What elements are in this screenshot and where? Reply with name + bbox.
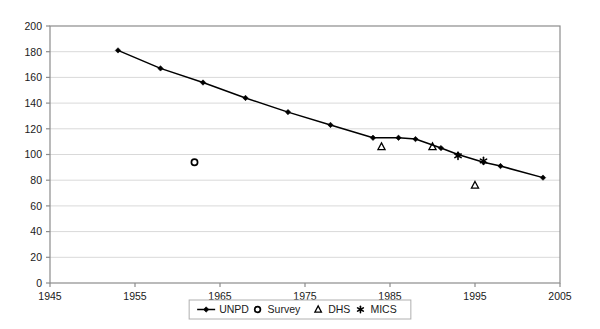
chart-container: 020406080100120140160180200 194519551965… — [0, 0, 600, 329]
legend-label: UNPD — [219, 303, 249, 315]
legend-label: DHS — [328, 303, 350, 315]
legend-label: Survey — [268, 303, 301, 315]
chart-legend: UNPDSurveyDHSMICS — [189, 300, 411, 319]
y-tick-label: 120 — [24, 123, 42, 135]
y-tick-label: 60 — [30, 200, 42, 212]
y-tick-label: 20 — [30, 251, 42, 263]
x-axis: 1945195519651975198519952005 — [38, 283, 572, 302]
y-tick-label: 140 — [24, 97, 42, 109]
x-tick-label: 1995 — [463, 290, 487, 302]
chart-svg: 020406080100120140160180200 194519551965… — [0, 0, 600, 329]
y-tick-label: 160 — [24, 71, 42, 83]
y-tick-label: 180 — [24, 46, 42, 58]
x-tick-label: 1955 — [123, 290, 147, 302]
y-tick-label: 0 — [36, 277, 42, 289]
y-tick-label: 100 — [24, 148, 42, 160]
y-axis: 020406080100120140160180200 — [24, 20, 50, 289]
legend-label: MICS — [370, 303, 396, 315]
y-tick-label: 80 — [30, 174, 42, 186]
x-tick-label: 1945 — [38, 290, 62, 302]
y-tick-label: 40 — [30, 225, 42, 237]
x-tick-label: 2005 — [548, 290, 572, 302]
y-tick-label: 200 — [24, 20, 42, 32]
